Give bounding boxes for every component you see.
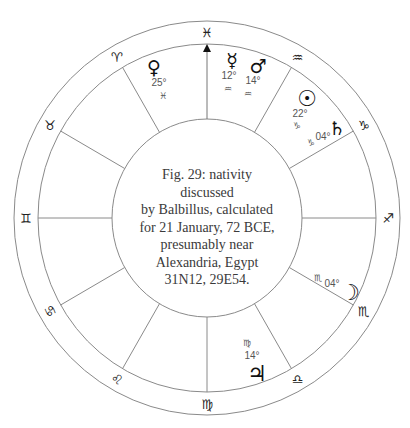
caption-line: for 21 January, 72 BCE, — [122, 219, 292, 237]
venus-sign-icon: ♓︎ — [159, 92, 167, 101]
sign-capricorn-icon: ♑︎ — [358, 119, 370, 132]
caption-line: by Balbillus, calculated — [122, 201, 292, 219]
mercury-sign-icon: ♒︎ — [224, 85, 232, 94]
sign-aquarius-icon: ♒︎ — [292, 50, 304, 63]
moon-icon: ☽︎ — [340, 282, 360, 304]
caption-line: Fig. 29: nativity — [122, 166, 292, 184]
mars-icon: ♂︎ — [249, 57, 266, 76]
sun-sign-icon: ♑︎ — [293, 122, 301, 131]
saturn-icon: ♄︎ — [328, 119, 345, 138]
moon-degree: 04° — [324, 279, 339, 289]
mercury-icon: ☿︎ — [226, 51, 238, 70]
saturn-degree: 04° — [315, 132, 330, 142]
house-cusp-line — [123, 304, 160, 369]
house-cusp-line — [61, 131, 125, 169]
sign-virgo-icon: ♍︎ — [201, 398, 213, 411]
mars-degree: 14° — [245, 76, 260, 86]
sun-degree: 22° — [292, 109, 307, 119]
sign-libra-icon: ♎︎ — [292, 373, 304, 386]
sign-aries-icon: ♈︎ — [111, 50, 123, 63]
sign-pisces-icon: ♓︎ — [201, 26, 213, 39]
saturn-sign-icon: ♑︎ — [307, 139, 315, 148]
caption-line: presumably near — [122, 236, 292, 254]
venus-degree: 25° — [151, 78, 166, 88]
caption-line: Alexandria, Egypt — [122, 254, 292, 272]
jupiter-icon: ♃︎ — [247, 363, 267, 385]
sun-icon: ☉︎ — [297, 88, 317, 110]
natal-chart: ♓︎ ♒︎ ♑︎ ♐︎ ♏︎ ♎︎ ♍︎ ♌︎ ♋︎ ♊︎ ♉︎ ♈︎ ♀︎ 2… — [0, 0, 410, 428]
moon-sign-icon: ♏︎ — [314, 274, 322, 283]
house-cusp-line — [61, 268, 125, 306]
sign-taurus-icon: ♉︎ — [44, 119, 56, 132]
midheaven-arrowhead-icon — [203, 44, 211, 52]
caption-line: discussed — [122, 184, 292, 202]
caption-line: 31N12, 29E54. — [122, 271, 292, 289]
sign-sagittarius-icon: ♐︎ — [382, 212, 394, 225]
jupiter-degree: 14° — [244, 351, 259, 361]
sign-gemini-icon: ♊︎ — [20, 212, 32, 225]
house-cusp-line — [255, 304, 292, 369]
mercury-degree: 12° — [221, 71, 236, 81]
chart-caption: Fig. 29: nativity discussed by Balbillus… — [122, 166, 292, 289]
sign-scorpio-icon: ♏︎ — [358, 305, 370, 318]
mars-sign-icon: ♒︎ — [244, 90, 252, 99]
jupiter-sign-icon: ♍︎ — [243, 339, 251, 348]
venus-icon: ♀︎ — [147, 58, 161, 77]
